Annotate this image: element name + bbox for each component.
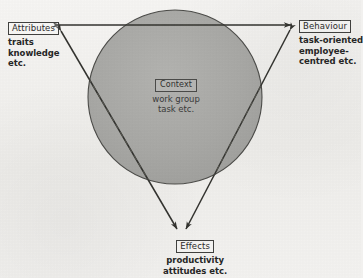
node-context-description: work group task etc. [131,94,221,114]
node-behaviour-label: Behaviour [299,20,351,33]
node-behaviour-desc-line-2: employee- [299,46,363,57]
node-context-label: Context [155,79,197,92]
node-behaviour-desc-line-1: task-oriented [299,35,363,46]
node-attributes-desc-line-2: knowledge [8,48,60,59]
node-attributes[interactable]: Attributes traits knowledge etc. [8,16,60,69]
node-attributes-desc-line-1: traits [8,37,60,48]
node-attributes-description: traits knowledge etc. [8,37,60,69]
node-behaviour-description: task-oriented employee- centred etc. [299,35,363,67]
node-context-desc-line-2: task etc. [131,104,221,114]
node-effects-description: productivity attitudes etc. [163,255,227,276]
node-attributes-label: Attributes [8,22,59,35]
node-context-desc-line-1: work group [131,94,221,104]
node-effects-desc-line-2: attitudes etc. [163,266,227,277]
node-attributes-desc-line-3: etc. [8,58,60,69]
node-effects[interactable]: Effects productivity attitudes etc. [163,234,227,276]
node-behaviour[interactable]: Behaviour task-oriented employee- centre… [299,14,363,67]
node-behaviour-desc-line-3: centred etc. [299,56,363,67]
node-effects-desc-line-1: productivity [163,255,227,266]
node-context[interactable]: Context work group task etc. [131,72,221,114]
node-effects-label: Effects [176,240,214,253]
